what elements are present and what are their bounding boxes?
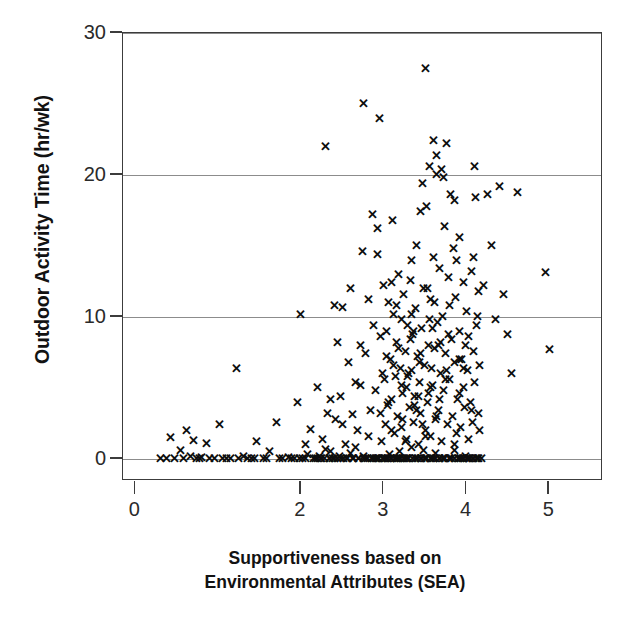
scatter-point: ✕ <box>387 215 398 226</box>
scatter-point: ✕ <box>393 343 404 354</box>
scatter-point: ✕ <box>305 424 316 435</box>
scatter-point: ✕ <box>458 363 469 374</box>
scatter-point: ✕ <box>347 453 358 464</box>
scatter-point: ✕ <box>502 329 513 340</box>
scatter-point: ✕ <box>350 377 361 388</box>
scatter-point: ✕ <box>431 150 442 161</box>
scatter-point: ✕ <box>429 297 440 308</box>
scatter-point: ✕ <box>347 409 358 420</box>
x-tick-mark-2 <box>299 481 301 494</box>
scatter-point: ✕ <box>343 357 354 368</box>
scatter-point: ✕ <box>214 419 225 430</box>
x-tick-mark-4 <box>465 481 467 494</box>
scatter-point: ✕ <box>312 382 323 393</box>
scatter-point: ✕ <box>355 340 366 351</box>
scatter-point: ✕ <box>188 435 199 446</box>
scatter-point: ✕ <box>506 368 517 379</box>
scatter-point: ✕ <box>400 436 411 447</box>
x-tick-mark-0 <box>134 481 136 494</box>
scatter-point: ✕ <box>386 277 397 288</box>
scatter-point: ✕ <box>443 329 454 340</box>
scatter-point: ✕ <box>397 414 408 425</box>
scatter-point: ✕ <box>439 221 450 232</box>
scatter-point: ✕ <box>370 453 381 464</box>
scatter-point: ✕ <box>438 172 449 183</box>
scatter-point: ✕ <box>451 255 462 266</box>
y-tick-label-30: 30 <box>46 21 106 44</box>
scatter-point: ✕ <box>428 135 439 146</box>
scatter-point: ✕ <box>443 272 454 283</box>
scatter-point: ✕ <box>381 326 392 337</box>
scatter-point: ✕ <box>441 365 452 376</box>
scatter-point: ✕ <box>372 223 383 234</box>
scatter-point: ✕ <box>434 394 445 405</box>
x-tick-label-4: 4 <box>445 498 485 521</box>
scatter-point: ✕ <box>286 453 297 464</box>
scatter-point: ✕ <box>335 391 346 402</box>
scatter-point: ✕ <box>424 314 435 325</box>
scatter-point: ✕ <box>411 240 422 251</box>
y-tick-label-0: 0 <box>46 446 106 469</box>
scatter-point: ✕ <box>469 161 480 172</box>
scatter-point: ✕ <box>292 397 303 408</box>
scatter-point: ✕ <box>372 249 383 260</box>
scatter-point: ✕ <box>463 434 474 445</box>
scatter-point: ✕ <box>449 439 460 450</box>
scatter-point: ✕ <box>426 363 437 374</box>
y-tick-mark-20 <box>110 173 122 175</box>
y-tick-mark-0 <box>110 457 122 459</box>
scatter-point: ✕ <box>374 113 385 124</box>
scatter-point: ✕ <box>324 453 335 464</box>
scatter-point: ✕ <box>461 306 472 317</box>
scatter-point: ✕ <box>225 453 236 464</box>
scatter-point: ✕ <box>367 209 378 220</box>
scatter-point: ✕ <box>417 178 428 189</box>
scatter-point: ✕ <box>325 394 336 405</box>
scatter-point: ✕ <box>494 181 505 192</box>
scatter-point: ✕ <box>312 453 323 464</box>
scatter-point: ✕ <box>473 453 484 464</box>
scatter-point: ✕ <box>468 252 479 263</box>
scatter-point: ✕ <box>201 438 212 449</box>
scatter-point: ✕ <box>474 360 485 371</box>
scatter-point: ✕ <box>449 195 460 206</box>
scatter-point: ✕ <box>345 283 356 294</box>
scatter-point: ✕ <box>352 425 363 436</box>
scatter-point: ✕ <box>295 309 306 320</box>
scatter-point: ✕ <box>320 141 331 152</box>
scatter-point: ✕ <box>335 453 346 464</box>
scatter-point: ✕ <box>358 453 369 464</box>
scatter-point: ✕ <box>441 138 452 149</box>
scatter-point: ✕ <box>363 431 374 442</box>
scatter-point: ✕ <box>403 368 414 379</box>
scatter-point: ✕ <box>358 98 369 109</box>
scatter-point: ✕ <box>161 453 172 464</box>
scatter-point: ✕ <box>271 417 282 428</box>
scatter-point: ✕ <box>458 277 469 288</box>
scatter-point: ✕ <box>490 314 501 325</box>
scatter-point: ✕ <box>363 294 374 305</box>
scatter-point: ✕ <box>431 411 442 422</box>
y-tick-label-20: 20 <box>46 162 106 185</box>
scatter-point: ✕ <box>357 246 368 257</box>
y-axis-title: Outdoor Activity Time (hr/wk) <box>31 20 54 440</box>
x-tick-label-3: 3 <box>363 498 403 521</box>
x-tick-label-5: 5 <box>528 498 568 521</box>
scatter-point: ✕ <box>540 267 551 278</box>
scatter-point: ✕ <box>405 275 416 286</box>
scatter-point: ✕ <box>420 431 431 442</box>
x-tick-label-2: 2 <box>280 498 320 521</box>
x-axis-title-line2: Environmental Attributes (SEA) <box>100 571 570 595</box>
scatter-point: ✕ <box>370 385 381 396</box>
scatter-point: ✕ <box>194 453 205 464</box>
scatter-point: ✕ <box>474 425 485 436</box>
scatter-point: ✕ <box>454 232 465 243</box>
scatter-point: ✕ <box>420 63 431 74</box>
scatter-point: ✕ <box>478 280 489 291</box>
scatter-point: ✕ <box>376 436 387 447</box>
scatter-point: ✕ <box>512 187 523 198</box>
scatter-point: ✕ <box>460 340 471 351</box>
scatter-point: ✕ <box>486 240 497 251</box>
scatter-point: ✕ <box>251 436 262 447</box>
scatter-plot-figure: Outdoor Activity Time (hr/wk) ✕✕✕✕✕✕✕✕✕✕… <box>0 0 630 626</box>
